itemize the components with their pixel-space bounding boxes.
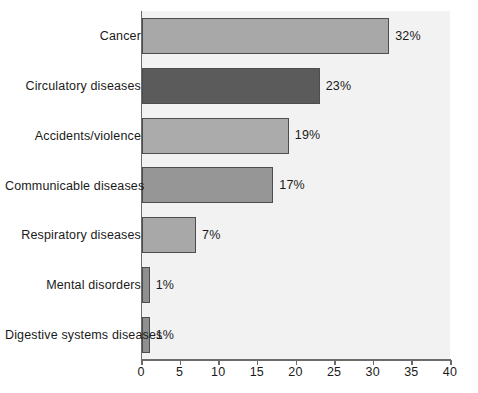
x-axis-ticks: 0510152025303540 — [141, 360, 451, 393]
bar-value-label: 32% — [395, 30, 421, 43]
bar-value-label: 1% — [156, 279, 174, 292]
x-tick-label: 25 — [327, 366, 341, 379]
x-tick-label: 0 — [137, 366, 144, 379]
x-tick-label: 20 — [288, 366, 302, 379]
bar — [142, 68, 320, 104]
category-label: Accidents/violence — [5, 130, 141, 143]
category-label: Digestive systems diseases — [5, 329, 141, 342]
bar-chart: 32%23%19%17%7%1%1% CancerCirculatory dis… — [0, 0, 478, 393]
bar-row: 1% — [142, 310, 450, 360]
bar-row: 1% — [142, 260, 450, 310]
bar — [142, 217, 196, 253]
category-label: Respiratory diseases — [5, 229, 141, 242]
bar-row: 23% — [142, 61, 450, 111]
bar-row: 17% — [142, 161, 450, 211]
bar-row: 7% — [142, 210, 450, 260]
bar-value-label: 7% — [202, 229, 220, 242]
x-tick-label: 35 — [404, 366, 418, 379]
y-axis-labels: CancerCirculatory diseasesAccidents/viol… — [0, 11, 141, 360]
category-label: Circulatory diseases — [5, 80, 141, 93]
bar — [142, 167, 273, 203]
bar — [142, 118, 289, 154]
bar-value-label: 19% — [295, 129, 321, 142]
x-tick-label: 5 — [176, 366, 183, 379]
plot-area: 32%23%19%17%7%1%1% — [141, 11, 450, 360]
category-label: Communicable diseases — [5, 180, 141, 193]
x-tick-label: 15 — [250, 366, 264, 379]
x-tick-label: 30 — [366, 366, 380, 379]
category-label: Mental disorders — [5, 279, 141, 292]
x-tick-label: 10 — [211, 366, 225, 379]
bar-value-label: 17% — [279, 179, 305, 192]
bar-row: 32% — [142, 11, 450, 61]
bar-value-label: 23% — [326, 80, 352, 93]
bar-row: 19% — [142, 111, 450, 161]
bar — [142, 18, 389, 54]
x-tick-label: 40 — [443, 366, 457, 379]
category-label: Cancer — [5, 30, 141, 43]
bar — [142, 267, 150, 303]
